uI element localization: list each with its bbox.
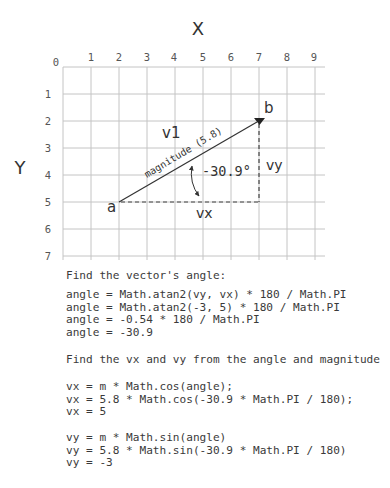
x-tick: 1 bbox=[88, 51, 94, 63]
angle-code-line: angle = -30.9 bbox=[66, 327, 153, 340]
angle-label: -30.9° bbox=[202, 163, 251, 179]
y-tick: 2 bbox=[45, 115, 51, 127]
vy-code-line: vy = -3 bbox=[66, 457, 113, 470]
angle-arc-icon bbox=[191, 166, 199, 196]
y-tick: 6 bbox=[45, 223, 51, 235]
angle-code-line: angle = Math.atan2(vy, vx) * 180 / Math.… bbox=[66, 289, 347, 302]
vx-label: vx bbox=[196, 205, 213, 221]
vector-label: v1 bbox=[162, 124, 180, 142]
grid bbox=[63, 67, 325, 260]
vy-label: vy bbox=[266, 157, 283, 173]
origin-label: 0 bbox=[53, 56, 59, 68]
x-tick: 9 bbox=[311, 51, 317, 63]
x-axis-label: X bbox=[192, 18, 204, 39]
x-tick: 5 bbox=[200, 51, 206, 63]
vector-diagram: X Y 0 1 2 3 4 5 6 7 8 9 1 2 3 bbox=[0, 0, 390, 265]
y-tick: 1 bbox=[45, 88, 51, 100]
x-tick: 6 bbox=[228, 51, 234, 63]
point-b-label: b bbox=[264, 99, 274, 117]
vector-v1-line bbox=[119, 122, 257, 202]
point-a-label: a bbox=[107, 198, 116, 216]
x-tick: 3 bbox=[144, 51, 150, 63]
y-tick: 4 bbox=[45, 169, 51, 181]
vy-code-line: vy = m * Math.sin(angle) bbox=[66, 432, 226, 445]
x-tick: 2 bbox=[116, 51, 122, 63]
x-tick: 4 bbox=[171, 51, 177, 63]
angle-heading: Find the vector's angle: bbox=[66, 270, 226, 283]
vx-code-line: vx = 5.8 * Math.cos(-30.9 * Math.PI / 18… bbox=[66, 394, 353, 407]
vx-code-line: vx = m * Math.cos(angle); bbox=[66, 381, 233, 394]
angle-code-line: angle = -0.54 * 180 / Math.PI bbox=[66, 314, 260, 327]
x-tick: 8 bbox=[284, 51, 290, 63]
y-tick: 3 bbox=[45, 142, 51, 154]
vx-code-line: vx = 5 bbox=[66, 406, 106, 419]
y-tick: 5 bbox=[45, 196, 51, 208]
y-axis-label: Y bbox=[14, 157, 27, 178]
components-heading: Find the vx and vy from the angle and ma… bbox=[66, 354, 380, 367]
x-tick: 7 bbox=[256, 51, 262, 63]
x-tick-labels: 0 1 2 3 4 5 6 7 8 9 bbox=[53, 51, 317, 68]
y-tick-labels: 1 2 3 4 5 6 7 bbox=[45, 88, 51, 262]
y-tick: 7 bbox=[45, 250, 51, 262]
